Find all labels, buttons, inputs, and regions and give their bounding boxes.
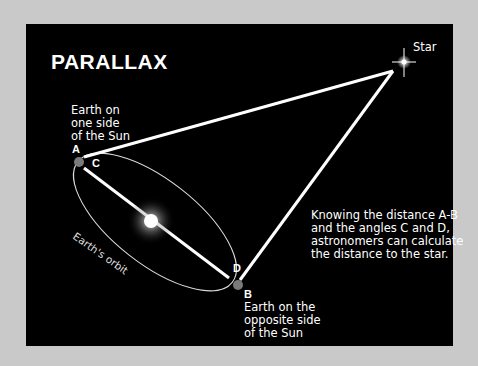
angle-d-label: D	[233, 262, 241, 274]
angle-c-label: C	[92, 157, 100, 169]
star-label: Star	[413, 41, 437, 54]
point-a-caption: Earth on one side of the Sun	[71, 104, 130, 143]
orbit-label: Earth's orbit	[71, 230, 131, 277]
point-b-label: B	[244, 288, 252, 300]
earth-a-icon	[74, 157, 84, 167]
earth-b-icon	[233, 280, 243, 290]
sun-icon	[144, 214, 158, 228]
point-a-label: A	[72, 143, 80, 155]
page-title: PARALLAX	[51, 50, 168, 74]
point-b-caption: Earth on the opposite side of the Sun	[244, 301, 321, 340]
explanation-text: Knowing the distance A-B and the angles …	[311, 209, 463, 261]
sightline-a-star	[84, 71, 393, 157]
